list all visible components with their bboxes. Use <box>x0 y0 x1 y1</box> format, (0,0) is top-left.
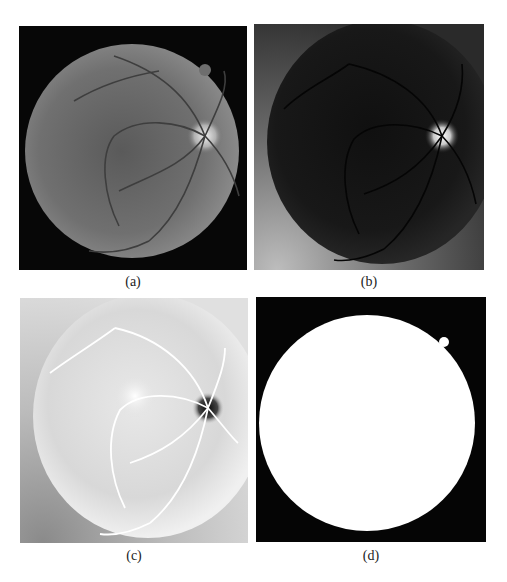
fov-mask-image <box>256 297 486 542</box>
fundus-image-b <box>254 24 484 270</box>
panel-d-binary-mask <box>256 297 486 542</box>
fundus-image-a <box>19 26 247 270</box>
panel-a-original-fundus <box>19 26 247 270</box>
fundus-image-c <box>20 298 248 543</box>
panel-b-enhanced-fundus <box>254 24 484 270</box>
caption-c: (c) <box>104 548 164 564</box>
panel-c-inverted-fundus <box>20 298 248 543</box>
caption-a: (a) <box>103 274 163 290</box>
caption-d: (d) <box>341 548 401 564</box>
caption-b: (b) <box>339 274 399 290</box>
